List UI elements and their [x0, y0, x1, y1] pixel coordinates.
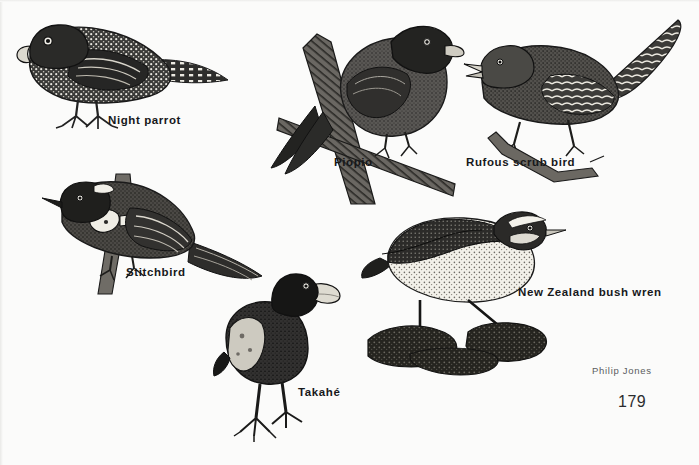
piopio-drawing — [271, 26, 464, 204]
artist-credit: Philip Jones — [592, 365, 652, 376]
figure-piopio — [255, 8, 465, 213]
figure-label-takahe: Takahé — [298, 386, 340, 398]
figure-label-stitchbird: Stitchbird — [126, 266, 186, 278]
page-top-edge-shadow — [0, 0, 699, 2]
figure-takahe — [212, 266, 342, 446]
book-page: Night parrot — [0, 0, 699, 465]
figure-label-night-parrot: Night parrot — [108, 114, 181, 126]
figure-label-new-zealand-bush-wren: New Zealand bush wren — [518, 286, 662, 298]
takahe-drawing — [213, 274, 340, 442]
page-number: 179 — [618, 393, 646, 411]
figure-label-rufous-scrub-bird: Rufous scrub bird — [466, 156, 575, 168]
figure-label-piopio: Piopio — [334, 156, 373, 168]
